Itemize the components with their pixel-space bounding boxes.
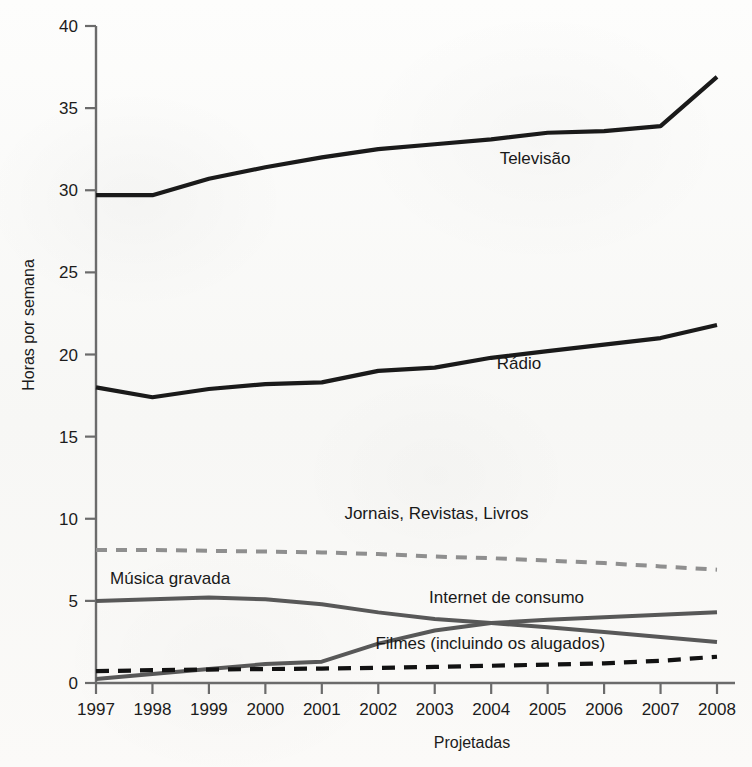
y-tick-group: [85, 26, 96, 683]
y-tick-label: 25: [59, 263, 78, 282]
x-tick-label: 1997: [77, 700, 115, 719]
x-axis-group: 1997199819992000200120022003200420052006…: [77, 683, 736, 719]
series-line: [96, 550, 717, 570]
y-tick-label: 20: [59, 346, 78, 365]
series-label: Rádio: [497, 354, 541, 373]
y-tick-label: 10: [59, 510, 78, 529]
series-label: Filmes (incluindo os alugados): [375, 634, 605, 653]
line-chart: 0510152025303540 19971998199920002001200…: [0, 0, 752, 767]
x-tick-label: 2006: [585, 700, 623, 719]
x-axis-title: Projetadas: [434, 734, 511, 751]
series-paths-group: [96, 77, 717, 679]
x-tick-label: 2004: [472, 700, 510, 719]
x-tick-label: 2001: [303, 700, 341, 719]
series-label: Televisão: [500, 149, 571, 168]
y-tick-label: 30: [59, 181, 78, 200]
x-tick-label: 2007: [642, 700, 680, 719]
x-tick-label: 2000: [246, 700, 284, 719]
x-tick-label: 2003: [416, 700, 454, 719]
x-tick-label: 2005: [529, 700, 567, 719]
series-label: Música gravada: [110, 569, 231, 588]
y-tick-label: 0: [69, 674, 78, 693]
y-axis-title: Horas por semana: [20, 259, 37, 391]
y-tick-label: 5: [69, 592, 78, 611]
x-tick-label: 2008: [698, 700, 736, 719]
y-tick-label: 40: [59, 17, 78, 36]
y-tick-label: 35: [59, 99, 78, 118]
x-tick-group: [96, 683, 717, 694]
series-line: [96, 77, 717, 195]
series-labels-group: TelevisãoRádioJornais, Revistas, LivrosM…: [110, 149, 605, 653]
y-ticklabel-group: 0510152025303540: [59, 17, 78, 693]
x-tick-label: 1999: [190, 700, 228, 719]
y-axis-group: 0510152025303540: [59, 17, 96, 693]
x-tick-label: 1998: [134, 700, 172, 719]
chart-container: 0510152025303540 19971998199920002001200…: [0, 0, 752, 767]
series-line: [96, 657, 717, 671]
x-tick-label: 2002: [359, 700, 397, 719]
series-line: [96, 325, 717, 397]
series-label: Internet de consumo: [429, 588, 584, 607]
x-ticklabel-group: 1997199819992000200120022003200420052006…: [77, 700, 736, 719]
series-label: Jornais, Revistas, Livros: [344, 504, 528, 523]
y-tick-label: 15: [59, 428, 78, 447]
